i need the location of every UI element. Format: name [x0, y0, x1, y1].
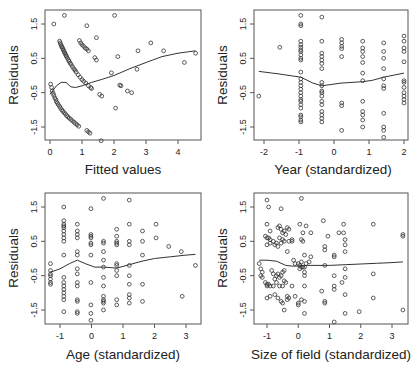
- data-point: [382, 135, 386, 139]
- data-point: [293, 294, 297, 298]
- data-point: [141, 253, 145, 257]
- x-tick-label: 2: [111, 147, 116, 157]
- data-point: [273, 293, 277, 297]
- data-point: [382, 111, 386, 115]
- y-tick-label: -1.5: [238, 119, 248, 135]
- x-tick-label: 1: [366, 147, 371, 157]
- data-point: [303, 300, 307, 304]
- y-tick-label: 0.5: [238, 235, 248, 248]
- data-point: [89, 207, 93, 211]
- data-point: [320, 39, 324, 43]
- data-point: [75, 222, 79, 226]
- data-point: [275, 281, 279, 285]
- scatter-points: [49, 197, 198, 323]
- x-tick-label: -1: [295, 147, 303, 157]
- loess-smooth-line: [50, 51, 196, 95]
- panel-age: Age (standardized) Residuals -10123-1.5-…: [6, 193, 201, 362]
- data-point: [371, 296, 375, 300]
- data-point: [342, 231, 346, 235]
- x-axis-title: Age (standardized): [66, 347, 180, 362]
- data-point: [115, 269, 119, 273]
- data-point: [343, 250, 347, 254]
- scatter-points: [257, 197, 404, 324]
- data-point: [307, 260, 311, 264]
- data-point: [340, 104, 344, 108]
- data-point: [113, 14, 117, 18]
- x-tick-label: -1: [263, 331, 271, 341]
- x-tick-label: 4: [175, 147, 180, 157]
- data-point: [340, 55, 344, 59]
- data-point: [75, 267, 79, 271]
- data-point: [332, 274, 336, 278]
- data-point: [401, 308, 405, 312]
- data-point: [343, 293, 347, 297]
- x-tick-label: 0: [89, 331, 94, 341]
- data-point: [285, 250, 289, 254]
- data-point: [342, 222, 346, 226]
- data-point: [304, 224, 308, 228]
- data-point: [115, 234, 119, 238]
- data-point: [299, 70, 303, 74]
- x-tick-label: 3: [143, 147, 148, 157]
- data-point: [320, 67, 324, 71]
- data-point: [115, 274, 119, 278]
- data-point: [321, 219, 325, 223]
- y-tick-label: -1.5: [29, 302, 39, 318]
- data-point: [298, 222, 302, 226]
- data-point: [115, 227, 119, 231]
- data-point: [102, 308, 106, 312]
- x-tick-label: 1: [79, 147, 84, 157]
- data-point: [309, 255, 313, 259]
- data-point: [265, 198, 269, 202]
- data-point: [265, 222, 269, 226]
- data-point: [343, 276, 347, 280]
- data-point: [300, 260, 304, 264]
- data-point: [89, 303, 93, 307]
- x-axis-title: Size of field (standardized): [251, 347, 411, 362]
- plot-frame: [254, 10, 408, 140]
- data-point: [62, 205, 66, 209]
- data-point: [320, 289, 324, 293]
- y-axis-title: Residuals: [6, 228, 21, 288]
- data-point: [382, 41, 386, 45]
- data-point: [162, 49, 166, 53]
- data-point: [49, 262, 53, 266]
- data-point: [268, 294, 272, 298]
- x-axis-title: Year (standardized): [274, 162, 391, 177]
- data-point: [361, 118, 365, 122]
- data-point: [309, 231, 313, 235]
- y-axis-title: Residuals: [6, 45, 21, 105]
- y-axis-title: Residuals: [215, 228, 230, 288]
- x-tick-label: 0: [47, 147, 52, 157]
- data-point: [382, 87, 386, 91]
- data-point: [371, 222, 375, 226]
- data-point: [126, 89, 130, 93]
- data-point: [102, 250, 106, 254]
- data-point: [257, 262, 261, 266]
- y-tick-label: 1.5: [238, 18, 248, 31]
- x-tick-label: 3: [183, 331, 188, 341]
- data-point: [303, 284, 307, 288]
- data-point: [361, 99, 365, 103]
- x-tick-label: 3: [389, 331, 394, 341]
- data-point: [278, 236, 282, 240]
- data-point: [303, 312, 307, 316]
- x-tick-label: -2: [260, 147, 268, 157]
- data-point: [382, 50, 386, 54]
- plot-frame: [254, 193, 408, 324]
- y-tick-label: 0.5: [29, 52, 39, 65]
- data-point: [63, 14, 67, 18]
- panel-fitted-values: Fitted values Residuals 01234-1.5-0.50.5…: [6, 10, 201, 177]
- y-tick-label: -0.5: [29, 85, 39, 101]
- y-tick-label: -0.5: [238, 268, 248, 284]
- x-tick-label: 1: [120, 331, 125, 341]
- data-point: [179, 250, 183, 254]
- data-point: [141, 300, 145, 304]
- x-tick-label: 2: [152, 331, 157, 341]
- data-point: [267, 205, 271, 209]
- data-point: [89, 281, 93, 285]
- data-point: [290, 284, 294, 288]
- y-tick-label: 0.5: [238, 52, 248, 65]
- y-tick-label: 1.5: [238, 201, 248, 214]
- data-point: [127, 282, 131, 286]
